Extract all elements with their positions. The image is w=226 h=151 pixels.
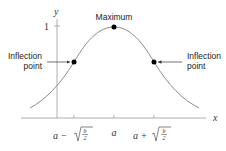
left-inflection-label-line1: Inflection [8, 51, 42, 61]
maximum-label: Maximum [96, 12, 133, 22]
sqrt-symbol [152, 127, 171, 141]
x-axis-label: x [212, 112, 218, 123]
svg-text:b: b [84, 128, 87, 134]
gaussian-diagram: y 1 x Maximum Inflection point Inflectio… [0, 0, 226, 151]
svg-text:2: 2 [163, 135, 166, 141]
right-inflection-label-line1: Inflection [187, 51, 221, 61]
left-inflection-point [72, 60, 77, 65]
x-tick-label-center: a [112, 127, 117, 138]
maximum-point [112, 25, 117, 30]
svg-text:a +: a + [133, 130, 147, 141]
x-tick-label-right: a + b 2 [133, 127, 171, 141]
x-tick-label-left: a − b 2 [53, 127, 93, 141]
right-inflection-point [152, 60, 157, 65]
y-axis-label: y [53, 6, 59, 17]
left-inflection-label-line2: point [24, 61, 43, 71]
bell-curve [30, 27, 199, 108]
svg-text:2: 2 [84, 135, 87, 141]
svg-text:a −: a − [53, 130, 67, 141]
y-tick-label: 1 [44, 21, 49, 32]
right-inflection-label-line2: point [187, 61, 206, 71]
svg-text:b: b [163, 128, 166, 134]
